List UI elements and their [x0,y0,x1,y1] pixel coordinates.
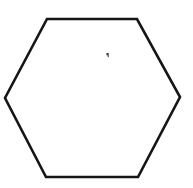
hexagon-figure [0,0,193,188]
figure-canvas: Black outline of a regular hexagon with … [0,0,193,188]
speck-artifact-tail-icon [108,55,109,57]
speck-artifact-icon [107,53,109,55]
